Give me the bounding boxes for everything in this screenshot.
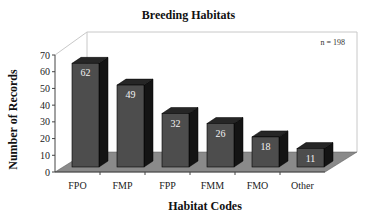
- bar-side: [99, 57, 108, 167]
- bar-value-label: 18: [261, 141, 271, 152]
- x-tick-label: FMP: [112, 180, 132, 191]
- bar-value-label: 32: [171, 118, 181, 129]
- bar-fpo: [72, 63, 99, 167]
- y-tick-label: 40: [40, 100, 50, 111]
- x-tick-label: Other: [291, 180, 314, 191]
- x-tick-label: FPO: [68, 180, 86, 191]
- bar-chart-3d: 01020304050607062FPO49FMP32FPP26FMM18FMO…: [0, 0, 377, 219]
- bar-value-label: 11: [306, 153, 316, 164]
- sample-size-annotation: n = 198: [320, 38, 345, 47]
- y-tick-label: 70: [40, 50, 50, 61]
- bar-value-label: 62: [81, 67, 91, 78]
- bar-side: [234, 118, 243, 167]
- y-tick-label: 0: [45, 167, 50, 178]
- x-tick-label: FMO: [247, 180, 269, 191]
- y-tick-label: 60: [40, 66, 50, 77]
- x-tick-label: FPP: [159, 180, 176, 191]
- x-tick-label: FMM: [201, 180, 224, 191]
- y-tick-label: 50: [40, 83, 50, 94]
- bar-value-label: 49: [126, 89, 136, 100]
- bar-side: [279, 131, 288, 167]
- y-tick-label: 30: [40, 116, 50, 127]
- y-tick-label: 10: [40, 150, 50, 161]
- bar-side: [144, 79, 153, 167]
- bar-side: [189, 108, 198, 167]
- bar-value-label: 26: [216, 128, 226, 139]
- y-tick-label: 20: [40, 133, 50, 144]
